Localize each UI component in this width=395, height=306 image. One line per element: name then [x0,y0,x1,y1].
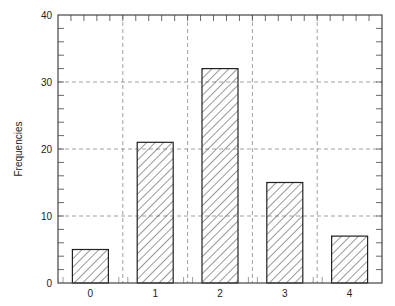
y-tick-label: 20 [41,144,53,155]
bar-4 [332,236,368,283]
y-axis-label: Frequencies [13,121,24,176]
bar-chart: 010203040 01234 Frequencies [0,0,395,306]
y-axis-tick-labels: 010203040 [41,10,53,289]
bar-3 [267,183,303,284]
bar-0 [72,250,108,284]
y-tick-label: 10 [41,211,53,222]
y-tick-label: 30 [41,77,53,88]
x-tick-label: 4 [347,288,353,299]
x-tick-label: 3 [282,288,288,299]
y-tick-label: 0 [46,278,52,289]
x-tick-label: 0 [88,288,94,299]
bar-1 [137,142,173,283]
x-tick-label: 2 [217,288,223,299]
y-tick-label: 40 [41,10,53,21]
chart-canvas: 010203040 01234 Frequencies [0,0,395,306]
bars [72,69,367,283]
x-tick-label: 1 [152,288,158,299]
bar-2 [202,69,238,283]
x-axis-tick-labels: 01234 [88,288,353,299]
